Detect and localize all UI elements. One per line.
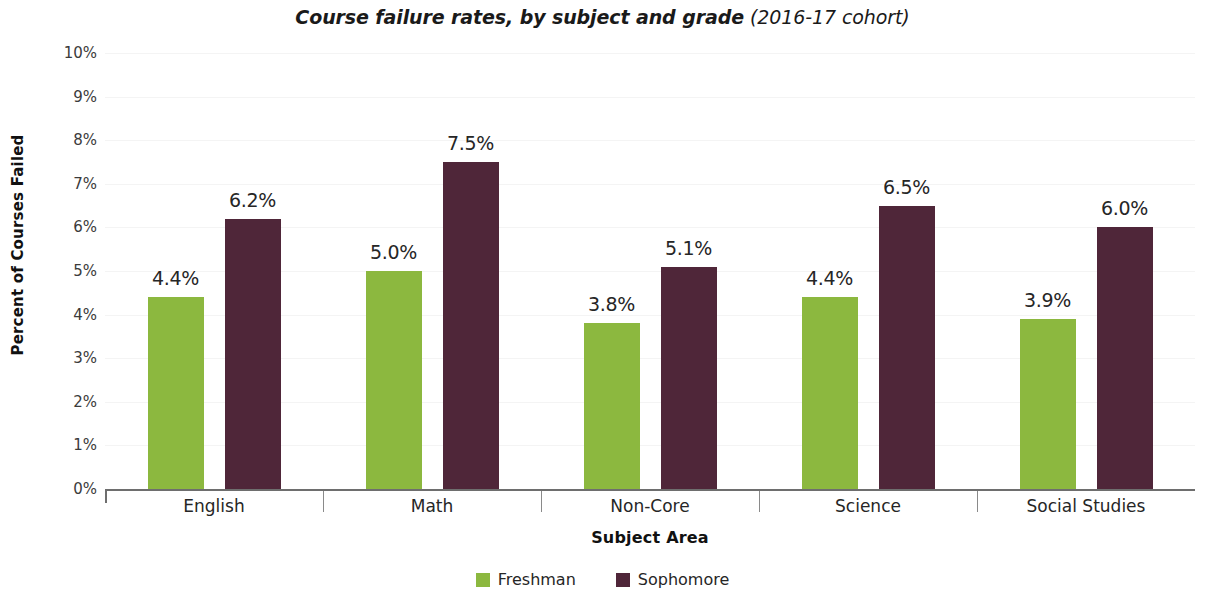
bar-chart: Course failure rates, by subject and gra… bbox=[0, 0, 1205, 600]
bar-math-sophomore[interactable] bbox=[443, 162, 499, 489]
x-axis-title: Subject Area bbox=[105, 528, 1195, 547]
bar-social-studies-freshman[interactable] bbox=[1020, 319, 1076, 489]
gridline bbox=[105, 140, 1195, 141]
bar-science-freshman[interactable] bbox=[802, 297, 858, 489]
gridline bbox=[105, 97, 1195, 98]
bar-science-sophomore[interactable] bbox=[879, 206, 935, 489]
legend-swatch-icon bbox=[616, 573, 630, 587]
y-axis-tick-label: 6% bbox=[37, 218, 97, 236]
chart-legend: FreshmanSophomore bbox=[0, 570, 1205, 589]
bar-value-label: 4.4% bbox=[126, 267, 226, 289]
y-axis-tick-label: 0% bbox=[37, 480, 97, 498]
gridline bbox=[105, 184, 1195, 185]
x-axis-category-label: Non-Core bbox=[541, 496, 759, 516]
bar-math-freshman[interactable] bbox=[366, 271, 422, 489]
y-axis-tick-label: 1% bbox=[37, 436, 97, 454]
x-axis-category-label: Math bbox=[323, 496, 541, 516]
legend-label: Sophomore bbox=[638, 570, 729, 589]
x-axis-line bbox=[105, 489, 1195, 491]
legend-item-freshman[interactable]: Freshman bbox=[476, 570, 576, 589]
x-axis-category-label: English bbox=[105, 496, 323, 516]
y-axis-tick-label: 2% bbox=[37, 393, 97, 411]
bar-english-sophomore[interactable] bbox=[225, 219, 281, 489]
x-axis-category-label: Science bbox=[759, 496, 977, 516]
bar-non-core-sophomore[interactable] bbox=[661, 267, 717, 489]
bar-value-label: 6.0% bbox=[1075, 197, 1175, 219]
y-axis-tick-label: 3% bbox=[37, 349, 97, 367]
y-axis-title: Percent of Courses Failed bbox=[4, 0, 32, 490]
bar-value-label: 7.5% bbox=[421, 132, 521, 154]
y-axis-tick-label: 10% bbox=[37, 44, 97, 62]
bar-social-studies-sophomore[interactable] bbox=[1097, 227, 1153, 489]
bar-english-freshman[interactable] bbox=[148, 297, 204, 489]
bar-value-label: 3.9% bbox=[998, 289, 1098, 311]
y-axis-tick-label: 7% bbox=[37, 175, 97, 193]
x-axis-category-label: Social Studies bbox=[977, 496, 1195, 516]
bar-value-label: 5.1% bbox=[639, 237, 739, 259]
y-axis-title-label: Percent of Courses Failed bbox=[9, 134, 27, 355]
bar-value-label: 4.4% bbox=[780, 267, 880, 289]
chart-title-main: Course failure rates, by subject and gra… bbox=[295, 6, 744, 28]
y-axis-tick-label: 4% bbox=[37, 306, 97, 324]
gridline bbox=[105, 53, 1195, 54]
legend-item-sophomore[interactable]: Sophomore bbox=[616, 570, 729, 589]
y-axis-tick-labels: 10%9%8%7%6%5%4%3%2%1%0% bbox=[33, 0, 97, 600]
bar-non-core-freshman[interactable] bbox=[584, 323, 640, 489]
bar-value-label: 6.2% bbox=[203, 189, 303, 211]
y-axis-tick-label: 5% bbox=[37, 262, 97, 280]
y-axis-tick-label: 9% bbox=[37, 88, 97, 106]
chart-title: Course failure rates, by subject and gra… bbox=[0, 6, 1205, 28]
legend-swatch-icon bbox=[476, 573, 490, 587]
chart-title-subtitle: (2016-17 cohort) bbox=[750, 6, 910, 28]
bar-value-label: 5.0% bbox=[344, 241, 444, 263]
bar-value-label: 3.8% bbox=[562, 293, 662, 315]
plot-area: 4.4%6.2%5.0%7.5%3.8%5.1%4.4%6.5%3.9%6.0% bbox=[105, 53, 1195, 489]
legend-label: Freshman bbox=[498, 570, 576, 589]
y-axis-tick-label: 8% bbox=[37, 131, 97, 149]
bar-value-label: 6.5% bbox=[857, 176, 957, 198]
